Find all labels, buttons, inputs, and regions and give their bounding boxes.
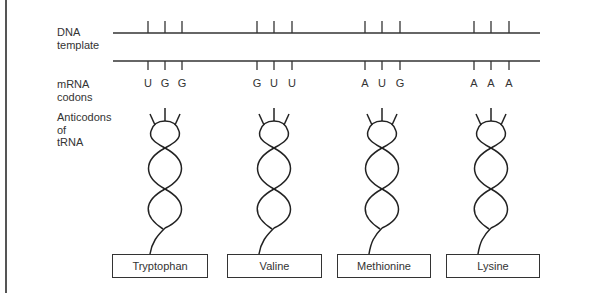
amino-acid-label: Tryptophan: [132, 260, 187, 272]
mrna-base: A: [505, 77, 513, 89]
trna-molecule: [148, 108, 181, 254]
amino-acid-label: Lysine: [477, 260, 508, 272]
mrna-base: U: [144, 77, 152, 89]
mrna-base: A: [487, 77, 495, 89]
mrna-base: A: [361, 77, 369, 89]
trna-molecule: [365, 108, 398, 254]
trna-molecule: [257, 108, 290, 254]
trna-molecule: [474, 108, 507, 254]
mrna-base: A: [470, 77, 478, 89]
mrna-base: G: [253, 77, 262, 89]
amino-acid-box-valine: Valine: [227, 254, 322, 278]
mrna-base: G: [396, 77, 405, 89]
amino-acid-label: Methionine: [357, 260, 411, 272]
amino-acid-box-methionine: Methionine: [337, 254, 431, 278]
mrna-base: U: [378, 77, 386, 89]
mrna-base: G: [178, 77, 187, 89]
mrna-base: U: [288, 77, 296, 89]
amino-acid-box-tryptophan: Tryptophan: [112, 254, 208, 278]
amino-acid-label: Valine: [260, 260, 290, 272]
mrna-base: G: [161, 77, 170, 89]
amino-acid-box-lysine: Lysine: [446, 254, 540, 278]
mrna-base: U: [270, 77, 278, 89]
translation-diagram: UGGGUUAUGAAA: [0, 0, 596, 293]
